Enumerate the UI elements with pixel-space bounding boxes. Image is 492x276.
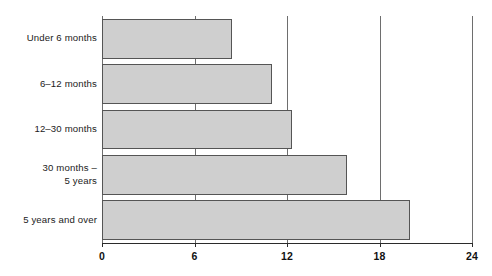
bar (102, 19, 232, 59)
x-axis-tick-label: 24 (466, 250, 478, 262)
x-axis-tick (195, 243, 196, 247)
category-label: 12–30 months (0, 123, 97, 136)
x-axis-tick-label: 6 (191, 250, 197, 262)
bar-chart: Under 6 months 6–12 months 12–30 months … (0, 0, 492, 276)
x-axis-tick-label: 18 (373, 250, 385, 262)
x-axis-tick (380, 243, 381, 247)
bar (102, 110, 292, 150)
bar (102, 64, 272, 104)
bar (102, 200, 410, 240)
category-label: 30 months – 5 years (0, 162, 97, 187)
x-axis-tick (472, 243, 473, 247)
category-label: 5 years and over (0, 214, 97, 227)
x-axis-tick (287, 243, 288, 247)
category-label: Under 6 months (0, 32, 97, 45)
category-label: 6–12 months (0, 78, 97, 91)
plot-area (102, 16, 472, 243)
x-axis-tick-label: 12 (281, 250, 293, 262)
x-axis-tick (102, 243, 103, 247)
x-axis-tick-label: 0 (99, 250, 105, 262)
bar (102, 155, 347, 195)
gridline (472, 16, 473, 243)
category-axis-labels: Under 6 months 6–12 months 12–30 months … (0, 16, 97, 243)
